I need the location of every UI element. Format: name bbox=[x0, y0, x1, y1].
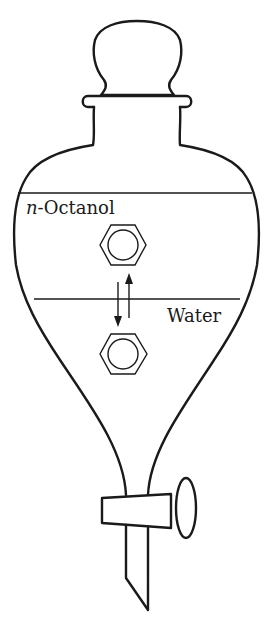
equilibrium-arrows-icon bbox=[114, 273, 133, 327]
stopcock-handle bbox=[176, 478, 196, 538]
octanol-label: n-Octanol bbox=[26, 197, 115, 218]
benzene-icon-octanol bbox=[100, 225, 146, 265]
benzene-icon-water bbox=[100, 334, 147, 374]
separatory-funnel-diagram: n-Octanol Water bbox=[0, 0, 271, 637]
stopper bbox=[94, 21, 182, 95]
funnel-collar bbox=[83, 96, 192, 107]
funnel-stem bbox=[126, 525, 148, 610]
funnel-body bbox=[14, 107, 259, 495]
water-label: Water bbox=[167, 305, 222, 326]
stopcock-barrel bbox=[102, 494, 171, 528]
